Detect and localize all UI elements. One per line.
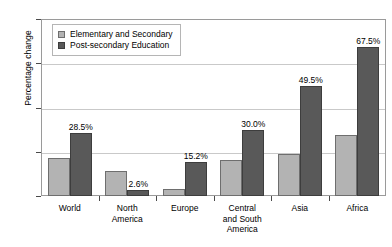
- legend-swatch-icon: [58, 31, 65, 38]
- legend: Elementary and Secondary Post-secondary …: [52, 24, 181, 56]
- bar: 28.5%: [70, 133, 92, 196]
- bar: [48, 158, 70, 196]
- bar-group: 49.5%: [271, 19, 329, 196]
- x-axis-labels: WorldNorthAmericaEuropeCentraland SouthA…: [41, 203, 386, 235]
- bar: 2.6%: [127, 190, 149, 196]
- bar-group: 30.0%: [214, 19, 272, 196]
- bar-value-label: 30.0%: [241, 120, 265, 129]
- bar: 15.2%: [185, 162, 207, 196]
- bar-group: 67.5%: [329, 19, 387, 196]
- bar: [163, 189, 185, 196]
- x-axis-tick-mark: [99, 196, 100, 201]
- legend-item-label: Post-secondary Education: [70, 41, 169, 50]
- bar-chart: Percentage change 806040200 28.5%2.6%15.…: [0, 0, 392, 247]
- x-axis-label: Centraland SouthAmerica: [214, 203, 272, 235]
- bar: 49.5%: [300, 86, 322, 196]
- bar: 30.0%: [242, 130, 264, 196]
- legend-swatch-icon: [58, 42, 65, 49]
- bar-value-label: 15.2%: [184, 152, 208, 161]
- bar: [278, 154, 300, 196]
- y-axis-title: Percentage change: [23, 0, 33, 148]
- bar: [220, 160, 242, 197]
- legend-item-label: Elementary and Secondary: [70, 30, 173, 39]
- legend-item: Post-secondary Education: [58, 40, 173, 51]
- x-axis-tick-mark: [329, 196, 330, 201]
- bar: 67.5%: [357, 47, 379, 196]
- legend-item: Elementary and Secondary: [58, 29, 173, 40]
- x-axis-tick-mark: [271, 196, 272, 201]
- x-axis-tick-mark: [156, 196, 157, 201]
- x-axis-label: Africa: [329, 203, 387, 235]
- x-axis-tick-mark: [214, 196, 215, 201]
- x-axis-label: Europe: [156, 203, 214, 235]
- bar-value-label: 28.5%: [69, 123, 93, 132]
- x-axis-label: Asia: [271, 203, 329, 235]
- bar-value-label: 2.6%: [129, 180, 148, 189]
- bar-value-label: 67.5%: [356, 37, 380, 46]
- x-axis-label: NorthAmerica: [99, 203, 157, 235]
- bar: [335, 135, 357, 196]
- bar: [105, 171, 127, 196]
- y-axis-tick-mark: [36, 196, 41, 197]
- x-axis-label: World: [41, 203, 99, 235]
- bar-value-label: 49.5%: [299, 76, 323, 85]
